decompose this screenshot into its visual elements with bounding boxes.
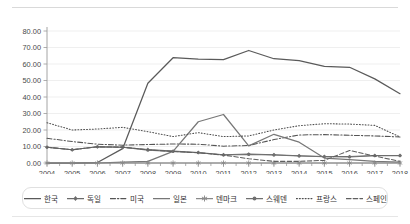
- chart-container: 0.0010.0020.0030.0040.0050.0060.0070.008…: [0, 0, 410, 224]
- legend-item-4[interactable]: 덴마크: [196, 193, 237, 204]
- legend-item-6[interactable]: 프랑스: [296, 193, 337, 204]
- bottom-divider: [12, 216, 398, 217]
- x-axis-tick-label: 2010: [190, 169, 206, 174]
- legend-swatch-덴마크: [196, 194, 213, 203]
- y-axis-tick-label: 30.00: [23, 109, 42, 118]
- x-axis-tick-label: 2011: [216, 169, 232, 174]
- legend-swatch-미국: [110, 194, 127, 203]
- legend-item-2[interactable]: 미국: [110, 193, 144, 204]
- legend-item-1[interactable]: 독일: [67, 193, 101, 204]
- series-marker-5: [399, 154, 402, 157]
- y-axis-tick-label: 0.00: [27, 159, 41, 168]
- x-axis-tick-label: 2012: [240, 169, 256, 174]
- legend-item-0[interactable]: 한국: [24, 193, 58, 204]
- legend-label: 독일: [87, 193, 101, 204]
- legend-label: 일본: [173, 193, 187, 204]
- legend-label: 프랑스: [316, 193, 337, 204]
- x-axis-tick-label: 2008: [140, 169, 156, 174]
- y-axis-tick-label: 80.00: [23, 27, 42, 36]
- series-marker-5: [323, 155, 326, 158]
- y-axis-tick-label: 50.00: [23, 76, 42, 85]
- x-axis-tick-label: 2013: [266, 169, 282, 174]
- series-line-2: [47, 135, 400, 147]
- series-marker-5: [298, 155, 301, 158]
- x-axis-tick-label: 2004: [39, 169, 55, 174]
- plot-area: 0.0010.0020.0030.0040.0050.0060.0070.008…: [0, 14, 410, 174]
- legend-label: 덴마크: [216, 193, 237, 204]
- x-axis-tick-label: 2005: [64, 169, 80, 174]
- legend-label: 미국: [130, 193, 144, 204]
- legend-swatch-프랑스: [296, 194, 313, 203]
- x-axis-tick-label: 2016: [341, 169, 357, 174]
- top-divider: [12, 7, 398, 8]
- legend-item-3[interactable]: 일본: [153, 193, 187, 204]
- y-axis-tick-label: 20.00: [23, 126, 42, 135]
- legend-swatch-스페인: [346, 194, 363, 203]
- x-axis-tick-label: 2015: [316, 169, 332, 174]
- legend-swatch-일본: [153, 194, 170, 203]
- x-axis-tick-label: 2006: [89, 169, 105, 174]
- series-marker-5: [247, 153, 250, 156]
- legend-swatch-독일: [67, 194, 84, 203]
- y-axis-tick-label: 10.00: [23, 142, 42, 151]
- legend-item-5[interactable]: 스웨덴: [246, 193, 287, 204]
- y-axis-tick-label: 60.00: [23, 60, 42, 69]
- x-axis-tick-label: 2018: [392, 169, 408, 174]
- y-axis-tick-label: 70.00: [23, 43, 42, 52]
- legend-label: 한국: [44, 193, 58, 204]
- legend-swatch-한국: [24, 194, 41, 203]
- x-axis-tick-label: 2007: [114, 169, 130, 174]
- x-axis-tick-label: 2014: [291, 169, 307, 174]
- chart-legend: 한국독일미국일본덴마크스웨덴프랑스스페인: [22, 187, 388, 209]
- legend-label: 스페인: [366, 193, 387, 204]
- legend-item-7[interactable]: 스페인: [346, 193, 387, 204]
- legend-label: 스웨덴: [266, 193, 287, 204]
- series-marker-5: [348, 156, 351, 159]
- y-axis-tick-label: 40.00: [23, 93, 42, 102]
- line-chart-svg: 0.0010.0020.0030.0040.0050.0060.0070.008…: [0, 14, 410, 174]
- series-marker-5: [272, 154, 275, 157]
- x-axis-tick-label: 2017: [367, 169, 383, 174]
- x-axis-tick-label: 2009: [165, 169, 181, 174]
- legend-swatch-스웨덴: [246, 194, 263, 203]
